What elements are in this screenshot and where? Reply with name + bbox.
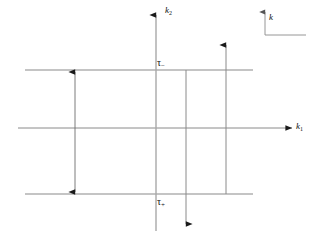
frame-marker-label: k (269, 13, 273, 22)
k1-axis-label-subscript: 1 (300, 126, 303, 132)
k2-axis-label-subscript: 2 (169, 10, 172, 16)
k2-axis-label: k2 (165, 6, 172, 15)
tau-minus-label: τ− (157, 58, 165, 68)
diagram-canvas: k2 k1 τ− τ+ k (0, 0, 319, 236)
tau-minus-label-subscript: − (161, 62, 165, 70)
tau-plus-label-subscript: + (161, 201, 165, 209)
tau-plus-label: τ+ (157, 197, 165, 207)
k1-axis-label: k1 (296, 122, 303, 131)
